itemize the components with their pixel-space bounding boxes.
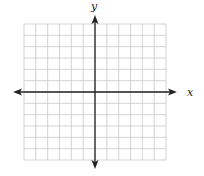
x-axis-label: x	[187, 86, 194, 99]
y-axis-label: y	[90, 0, 98, 13]
axes	[13, 15, 177, 169]
coordinate-plane: x y	[0, 0, 204, 176]
